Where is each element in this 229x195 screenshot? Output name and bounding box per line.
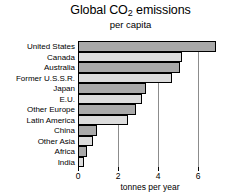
bar[interactable]	[78, 73, 172, 84]
chart-title-tail: emissions	[133, 3, 191, 17]
bar[interactable]	[78, 146, 87, 157]
bar[interactable]	[78, 136, 93, 147]
bar-row	[78, 115, 222, 126]
x-tick-label: 2	[108, 171, 128, 181]
chart-title-subscript: 2	[128, 8, 133, 18]
bar[interactable]	[78, 62, 180, 73]
bar-row	[78, 104, 222, 115]
bar-row	[78, 83, 222, 94]
plot-area	[78, 41, 222, 167]
bar-row	[78, 94, 222, 105]
bar[interactable]	[78, 83, 146, 94]
value-axis-line	[78, 41, 79, 167]
category-label: Canada	[4, 53, 78, 62]
bar[interactable]	[78, 125, 97, 136]
bar-row	[78, 157, 222, 168]
category-label: Former U.S.S.R.	[4, 74, 78, 83]
bar-row	[78, 146, 222, 157]
bar-row	[78, 52, 222, 63]
category-label: Latin America	[4, 116, 78, 125]
category-label: E.U.	[4, 95, 78, 104]
category-label: Japan	[4, 84, 78, 93]
bar-row	[78, 136, 222, 147]
chart-title-main: Global CO	[70, 3, 127, 17]
chart-container: Global CO2 emissions per capita United S…	[0, 0, 229, 195]
category-label: China	[4, 126, 78, 135]
bar-row	[78, 125, 222, 136]
x-tick-label: 4	[148, 171, 168, 181]
x-tick-label: 6	[188, 171, 208, 181]
bar-row	[78, 62, 222, 73]
category-label: Other Asia	[4, 137, 78, 146]
bar[interactable]	[78, 52, 182, 63]
bar-row	[78, 73, 222, 84]
category-axis-labels: United StatesCanadaAustraliaFormer U.S.S…	[0, 41, 78, 167]
category-label: United States	[4, 42, 78, 51]
chart-subtitle: per capita	[0, 19, 229, 30]
category-label: Australia	[4, 63, 78, 72]
category-label: Other Europe	[4, 105, 78, 114]
bar[interactable]	[78, 115, 128, 126]
bar[interactable]	[78, 94, 142, 105]
category-label: Africa	[4, 147, 78, 156]
bar[interactable]	[78, 41, 216, 52]
x-axis-label: tonnes per year	[78, 182, 222, 192]
chart-title: Global CO2 emissions	[0, 3, 229, 18]
bar[interactable]	[78, 104, 136, 115]
bar-row	[78, 41, 222, 52]
category-label: India	[4, 158, 78, 167]
x-tick-label: 0	[68, 171, 88, 181]
